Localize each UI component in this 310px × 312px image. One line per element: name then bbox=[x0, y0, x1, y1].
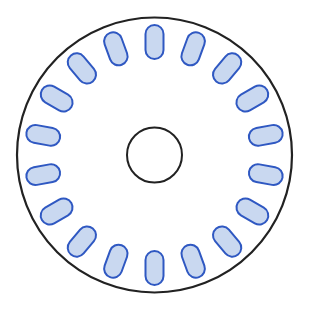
slot bbox=[146, 251, 164, 285]
slot bbox=[209, 223, 245, 261]
slot bbox=[64, 223, 100, 261]
center-hole-circle bbox=[127, 128, 182, 183]
slot bbox=[37, 195, 75, 228]
slot bbox=[247, 124, 284, 148]
slot bbox=[25, 163, 62, 187]
slot-group bbox=[25, 25, 284, 285]
slot bbox=[209, 50, 245, 88]
slot bbox=[146, 25, 164, 59]
slot bbox=[247, 163, 284, 187]
slot bbox=[179, 30, 208, 68]
slot bbox=[37, 82, 75, 115]
encoder-disc-diagram bbox=[0, 0, 310, 312]
slot bbox=[64, 50, 100, 88]
slot bbox=[25, 124, 62, 148]
slot bbox=[233, 82, 271, 115]
slot bbox=[102, 30, 131, 68]
slot bbox=[179, 242, 208, 280]
slot bbox=[233, 195, 271, 228]
slot bbox=[102, 242, 131, 280]
